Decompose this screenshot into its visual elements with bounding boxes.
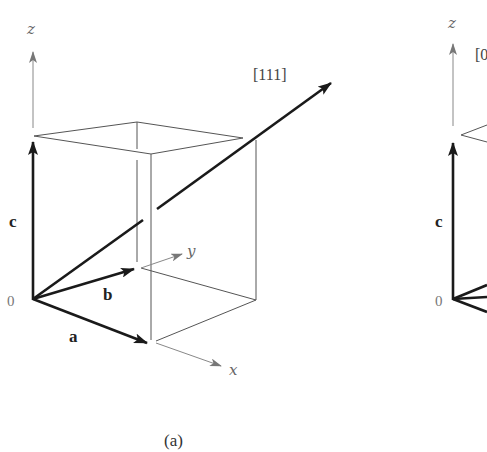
panel-b-z-axis-label: z [447, 14, 456, 32]
unit-cell-cube [34, 122, 256, 341]
vector-c-label: c [9, 212, 17, 231]
origin-label: 0 [7, 293, 15, 309]
y-axis-label: y [186, 242, 196, 260]
crystal-direction-diagram: z y x c b a [111] 0 (a) z [0 c [0, 0, 487, 452]
vector-a [33, 299, 147, 343]
panel-b: z [0 c 0 [435, 14, 487, 312]
direction-111-upper [157, 83, 331, 209]
panel-b-top-edge-2 [461, 135, 487, 142]
panel-b-direction-label: [0 [475, 46, 487, 63]
x-axis-label: x [229, 361, 238, 379]
panel-b-vector-lower [453, 299, 487, 312]
vector-b-label: b [103, 285, 112, 304]
direction-111-label: [111] [253, 66, 286, 83]
vector-a-label: a [69, 327, 78, 346]
x-axis [156, 343, 221, 366]
panel-b-top-edge [461, 125, 487, 135]
panel-b-vector-c-label: c [435, 212, 443, 231]
direction-111-lower [33, 220, 143, 299]
vector-b [33, 269, 134, 299]
panel-a-caption: (a) [164, 431, 183, 450]
panel-a: z y x c b a [111] 0 (a) [7, 20, 331, 450]
y-axis [141, 254, 182, 268]
z-axis-label: z [26, 20, 35, 38]
panel-b-origin-label: 0 [435, 293, 443, 309]
